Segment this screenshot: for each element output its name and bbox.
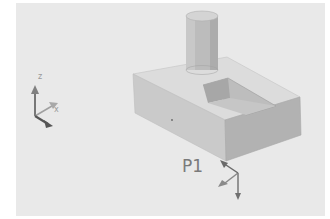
cylinder-top[interactable] — [186, 11, 218, 21]
cylinder-shade — [210, 16, 218, 70]
point-label-p1: P1 — [182, 156, 203, 176]
p1-coordinate-system[interactable] — [218, 160, 241, 200]
3d-viewport[interactable]: z x P1 — [16, 3, 325, 216]
global-triad[interactable]: z x — [31, 72, 59, 128]
z-arrow-icon — [31, 85, 39, 94]
model-canvas[interactable]: z x — [16, 3, 325, 216]
p1-z-arrow-icon — [235, 193, 241, 200]
x-axis-label: x — [54, 105, 59, 114]
z-axis-label: z — [38, 72, 42, 81]
p1-y-arrow-icon — [220, 160, 228, 168]
vertex-dot — [171, 119, 173, 121]
cylinder-highlight — [186, 16, 195, 70]
y-arrow-icon — [44, 120, 53, 128]
